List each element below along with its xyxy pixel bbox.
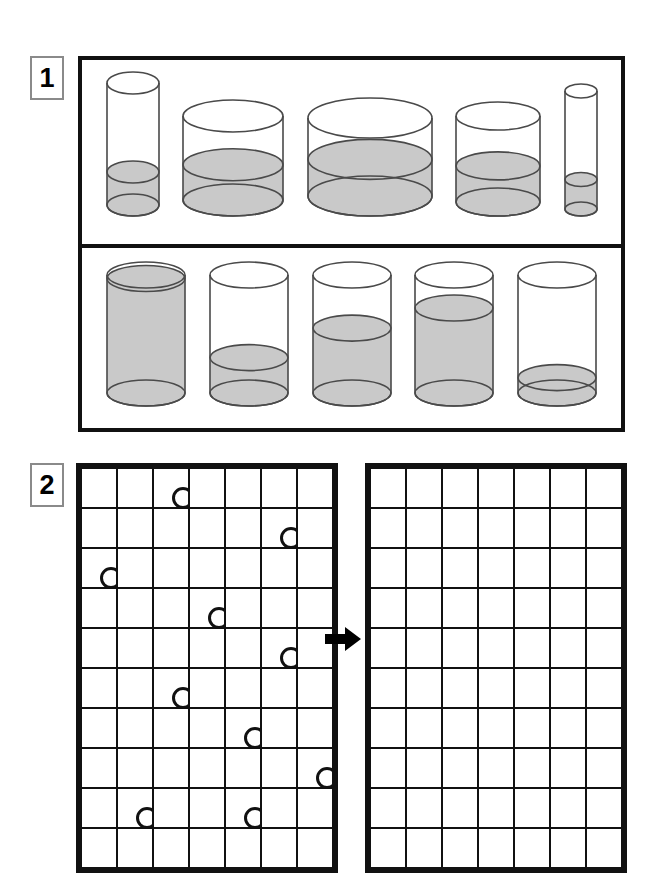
grid-cell[interactable] (586, 588, 622, 628)
grid-cell[interactable] (297, 828, 333, 868)
grid-cell[interactable] (406, 508, 442, 548)
grid-cell[interactable] (225, 788, 261, 828)
filled-grid[interactable] (76, 463, 338, 873)
grid-cell[interactable] (514, 548, 550, 588)
grid-cell[interactable] (478, 548, 514, 588)
grid-cell[interactable] (81, 628, 117, 668)
grid-cell[interactable] (189, 628, 225, 668)
grid-cell[interactable] (514, 748, 550, 788)
grid-cell[interactable] (478, 828, 514, 868)
grid-cell[interactable] (189, 708, 225, 748)
grid-cell[interactable] (550, 548, 586, 588)
grid-cell[interactable] (406, 588, 442, 628)
grid-cell[interactable] (261, 708, 297, 748)
grid-cell[interactable] (550, 668, 586, 708)
grid-cell[interactable] (261, 548, 297, 588)
grid-cell[interactable] (550, 628, 586, 668)
grid-cell[interactable] (550, 788, 586, 828)
grid-cell[interactable] (189, 548, 225, 588)
grid-cell[interactable] (406, 548, 442, 588)
grid-cell[interactable] (550, 748, 586, 788)
grid-cell[interactable] (225, 548, 261, 588)
grid-cell[interactable] (586, 628, 622, 668)
grid-cell[interactable] (514, 788, 550, 828)
grid-cell[interactable] (586, 828, 622, 868)
grid-cell[interactable] (297, 788, 333, 828)
grid-cell[interactable] (370, 788, 406, 828)
grid-cell[interactable] (117, 588, 153, 628)
grid-cell[interactable] (153, 628, 189, 668)
grid-cell[interactable] (370, 508, 406, 548)
grid-cell[interactable] (370, 628, 406, 668)
grid-cell[interactable] (297, 548, 333, 588)
grid-cell[interactable] (117, 548, 153, 588)
grid-cell[interactable] (442, 468, 478, 508)
grid-cell[interactable] (153, 708, 189, 748)
grid-cell[interactable] (297, 508, 333, 548)
grid-cell[interactable] (514, 468, 550, 508)
grid-cell[interactable] (550, 468, 586, 508)
grid-cell[interactable] (189, 588, 225, 628)
grid-cell[interactable] (550, 708, 586, 748)
grid-cell[interactable] (406, 628, 442, 668)
grid-cell[interactable] (153, 828, 189, 868)
grid-cell[interactable] (225, 828, 261, 868)
grid-cell[interactable] (370, 588, 406, 628)
grid-cell[interactable] (117, 788, 153, 828)
grid-cell[interactable] (478, 628, 514, 668)
grid-cell[interactable] (81, 708, 117, 748)
grid-cell[interactable] (550, 828, 586, 868)
grid-cell[interactable] (442, 708, 478, 748)
grid-cell[interactable] (261, 788, 297, 828)
grid-cell[interactable] (153, 468, 189, 508)
grid-cell[interactable] (550, 508, 586, 548)
grid-cell[interactable] (442, 788, 478, 828)
grid-cell[interactable] (514, 828, 550, 868)
grid-cell[interactable] (442, 548, 478, 588)
grid-cell[interactable] (81, 788, 117, 828)
grid-cell[interactable] (370, 668, 406, 708)
grid-cell[interactable] (297, 668, 333, 708)
grid-cell[interactable] (261, 668, 297, 708)
grid-cell[interactable] (586, 748, 622, 788)
grid-cell[interactable] (478, 508, 514, 548)
grid-cell[interactable] (153, 548, 189, 588)
grid-cell[interactable] (153, 668, 189, 708)
grid-cell[interactable] (297, 588, 333, 628)
grid-cell[interactable] (117, 828, 153, 868)
grid-cell[interactable] (370, 468, 406, 508)
grid-cell[interactable] (297, 708, 333, 748)
grid-cell[interactable] (261, 468, 297, 508)
grid-cell[interactable] (81, 828, 117, 868)
grid-cell[interactable] (117, 508, 153, 548)
grid-cell[interactable] (117, 468, 153, 508)
grid-cell[interactable] (297, 748, 333, 788)
grid-cell[interactable] (514, 508, 550, 548)
grid-cell[interactable] (370, 748, 406, 788)
grid-cell[interactable] (478, 708, 514, 748)
grid-cell[interactable] (442, 748, 478, 788)
grid-cell[interactable] (81, 508, 117, 548)
grid-cell[interactable] (117, 708, 153, 748)
grid-cell[interactable] (478, 748, 514, 788)
grid-cell[interactable] (442, 588, 478, 628)
grid-cell[interactable] (297, 468, 333, 508)
grid-cell[interactable] (586, 508, 622, 548)
grid-cell[interactable] (514, 588, 550, 628)
grid-cell[interactable] (225, 708, 261, 748)
grid-cell[interactable] (406, 828, 442, 868)
grid-cell[interactable] (514, 668, 550, 708)
grid-cell[interactable] (261, 628, 297, 668)
circle-token-icon[interactable] (316, 767, 338, 789)
grid-cell[interactable] (586, 708, 622, 748)
grid-cell[interactable] (586, 468, 622, 508)
grid-cell[interactable] (478, 788, 514, 828)
grid-cell[interactable] (117, 628, 153, 668)
grid-cell[interactable] (189, 508, 225, 548)
grid-cell[interactable] (406, 788, 442, 828)
empty-grid[interactable] (365, 463, 627, 873)
grid-cell[interactable] (117, 748, 153, 788)
grid-cell[interactable] (442, 668, 478, 708)
grid-cell[interactable] (261, 748, 297, 788)
grid-cell[interactable] (478, 668, 514, 708)
